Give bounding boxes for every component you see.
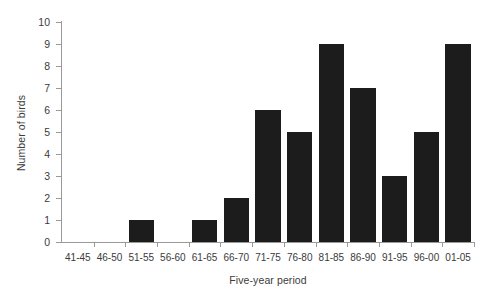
y-tick-mark — [56, 66, 61, 67]
bar-chart: Number of birds 109876543210 41-4546-505… — [0, 0, 485, 302]
x-tick-mark — [316, 243, 317, 247]
y-tick-mark — [56, 132, 61, 133]
y-tick-label: 5 — [0, 132, 50, 142]
y-tick-label-text: 0 — [0, 237, 50, 247]
y-tick-label: 2 — [0, 198, 50, 208]
y-tick-mark — [56, 154, 61, 155]
x-tick-mark — [94, 243, 95, 247]
bar — [350, 88, 375, 242]
x-tick-mark — [347, 243, 348, 247]
y-tick-label-text: 1 — [0, 215, 50, 225]
x-tick-mark — [189, 243, 190, 247]
y-tick-label-text: 9 — [0, 39, 50, 49]
bar — [192, 220, 217, 242]
x-tick-mark — [474, 243, 475, 247]
y-tick-label-text: 10 — [0, 17, 50, 27]
bar — [445, 44, 470, 242]
bar — [382, 176, 407, 242]
y-tick-label: 6 — [0, 110, 50, 120]
y-tick-label-text: 4 — [0, 149, 50, 159]
y-tick-label: 8 — [0, 66, 50, 76]
y-tick-mark — [56, 242, 61, 243]
y-tick-label-text: 8 — [0, 61, 50, 71]
y-tick-label: 4 — [0, 154, 50, 164]
y-tick-label-text: 3 — [0, 171, 50, 181]
x-tick-mark — [220, 243, 221, 247]
y-tick-mark — [56, 176, 61, 177]
x-tick-mark — [157, 243, 158, 247]
x-tick-mark — [125, 243, 126, 247]
y-tick-label-text: 2 — [0, 193, 50, 203]
y-tick-mark — [56, 22, 61, 23]
y-tick-label-text: 5 — [0, 127, 50, 137]
y-tick-label: 9 — [0, 44, 50, 54]
bar — [129, 220, 154, 242]
y-tick-label: 0 — [0, 242, 50, 252]
x-tick-mark — [442, 243, 443, 247]
x-axis-line — [61, 242, 475, 243]
bar — [414, 132, 439, 242]
y-tick-mark — [56, 44, 61, 45]
bar — [319, 44, 344, 242]
x-tick-label: 01-05 — [438, 252, 478, 264]
y-tick-mark — [56, 110, 61, 111]
y-tick-label: 1 — [0, 220, 50, 230]
x-tick-mark — [379, 243, 380, 247]
x-axis-title: Five-year period — [62, 274, 474, 286]
y-tick-label-text: 7 — [0, 83, 50, 93]
y-tick-label: 7 — [0, 88, 50, 98]
x-tick-mark — [411, 243, 412, 247]
y-tick-mark — [56, 198, 61, 199]
plot-area — [62, 22, 474, 242]
y-tick-label-text: 6 — [0, 105, 50, 115]
y-tick-mark — [56, 220, 61, 221]
x-tick-mark — [284, 243, 285, 247]
x-tick-mark — [252, 243, 253, 247]
y-tick-label: 10 — [0, 22, 50, 32]
bar — [255, 110, 280, 242]
bar — [224, 198, 249, 242]
y-tick-label: 3 — [0, 176, 50, 186]
bar — [287, 132, 312, 242]
y-tick-mark — [56, 88, 61, 89]
